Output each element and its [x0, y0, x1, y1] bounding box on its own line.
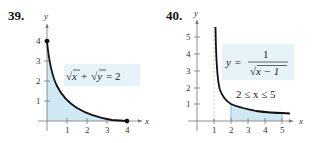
- y-tick-label: 5: [186, 32, 191, 42]
- equation-39: √x+√y= 2: [66, 70, 121, 82]
- y-tick-label: 4: [186, 49, 191, 59]
- x-tick-label: 1: [65, 125, 70, 135]
- x-tick-label: 2: [85, 125, 90, 135]
- y-axis-label: y: [193, 8, 198, 18]
- y-tick-label: 3: [186, 66, 191, 76]
- figure-number-39: 39.: [8, 8, 24, 23]
- y-tick-label: 1: [186, 99, 191, 109]
- y-axis-label: y: [43, 11, 48, 21]
- y-tick-label: 3: [36, 56, 41, 66]
- x-axis-label: x: [144, 116, 149, 126]
- x-tick-label: 2: [229, 125, 234, 135]
- y-tick-label: 2: [36, 76, 41, 86]
- x-tick-label: 3: [105, 125, 110, 135]
- y-tick-label: 2: [186, 83, 191, 93]
- svg-text:√x − 1: √x − 1: [250, 65, 279, 77]
- y-tick-label: 1: [36, 96, 41, 106]
- interval-label: 2 ≤ x ≤ 5: [236, 88, 276, 100]
- figure-canvas: 39. x y 1 2 3 4 1 2 3 4: [0, 0, 323, 143]
- y-tick-label: 4: [36, 36, 41, 46]
- x-axis-label: x: [298, 116, 303, 126]
- endpoint-4-0: [125, 119, 130, 124]
- x-tick-label: 4: [263, 125, 268, 135]
- x-tick-label: 5: [280, 125, 285, 135]
- svg-text:y =: y =: [225, 56, 241, 68]
- svg-text:1: 1: [263, 48, 269, 60]
- endpoint-0-4: [45, 39, 50, 44]
- x-tick-label: 3: [246, 125, 251, 135]
- x-tick-label: 1: [212, 125, 217, 135]
- svg-text:√x+√y= 2: √x+√y= 2: [66, 70, 121, 82]
- figure-number-40: 40.: [166, 8, 182, 23]
- figure-40: 40. x y 1 2 3 4 5: [166, 8, 303, 135]
- x-tick-label: 4: [125, 125, 130, 135]
- figure-39: 39. x y 1 2 3 4 1 2 3 4: [8, 8, 149, 135]
